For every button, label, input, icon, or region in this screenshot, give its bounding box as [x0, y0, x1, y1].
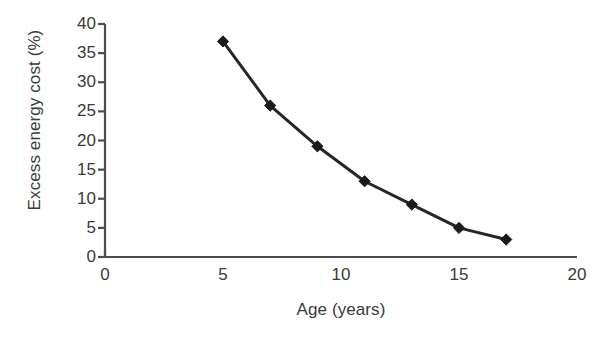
data-point-marker: [453, 222, 464, 233]
x-tick-label: 15: [439, 266, 479, 283]
y-tick-label: 35: [62, 44, 96, 61]
y-tick-label: 15: [62, 161, 96, 178]
y-tick-label: 40: [62, 15, 96, 32]
x-axis-title: Age (years): [105, 300, 577, 320]
y-tick-label: 0: [62, 248, 96, 265]
data-series: [217, 36, 511, 245]
y-tick-label: 20: [62, 132, 96, 149]
x-tick-label: 5: [203, 266, 243, 283]
x-tick-label: 0: [85, 266, 125, 283]
y-axis-title: Excess energy cost (%): [25, 0, 45, 240]
series-line: [223, 41, 506, 239]
data-point-marker: [406, 199, 417, 210]
x-tick-label: 10: [321, 266, 361, 283]
y-tick-label: 5: [62, 219, 96, 236]
y-tick-label: 10: [62, 190, 96, 207]
chart-figure: Excess energy cost (%) Age (years) 05101…: [0, 0, 616, 340]
y-tick-label: 25: [62, 102, 96, 119]
data-point-marker: [501, 234, 512, 245]
y-tick-label: 30: [62, 73, 96, 90]
x-tick-label: 20: [557, 266, 597, 283]
x-axis-tick-labels: 05101520: [0, 266, 616, 296]
axes: [105, 24, 577, 257]
